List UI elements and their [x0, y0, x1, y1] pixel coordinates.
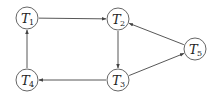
node-t3: T3	[107, 69, 129, 91]
node-t5: T5	[184, 38, 206, 60]
node-t4: T4	[16, 69, 38, 91]
edge-t5-to-t2	[129, 23, 184, 44]
nodes-group: T1T2T3T4T5	[16, 7, 206, 91]
node-subscript: 2	[120, 19, 125, 28]
edge-line	[39, 18, 106, 19]
graph-svg: T1T2T3T4T5	[0, 0, 214, 97]
node-subscript: 1	[29, 18, 34, 27]
edge-line	[129, 23, 184, 44]
edges-group	[27, 18, 184, 80]
edge-line	[129, 53, 184, 75]
node-subscript: 3	[120, 80, 125, 89]
edge-t1-to-t2	[39, 18, 106, 19]
node-subscript: 4	[29, 80, 34, 89]
edge-t3-to-t5	[129, 53, 184, 75]
node-subscript: 5	[197, 49, 202, 58]
node-t1: T1	[16, 7, 38, 29]
graph-canvas: T1T2T3T4T5	[0, 0, 214, 97]
node-t2: T2	[107, 8, 129, 30]
